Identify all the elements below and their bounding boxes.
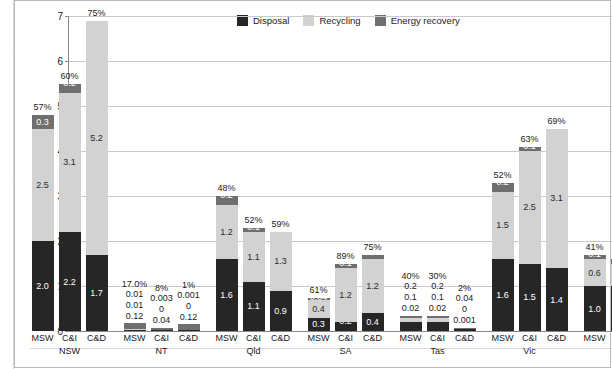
- segment-energy: [400, 316, 422, 317]
- recovery-percent-label: 75%: [363, 242, 381, 252]
- bar-column-nsw-cd[interactable]: 1.75.275%: [86, 16, 108, 331]
- x-tick-label-nt-cd: C&D: [172, 333, 206, 343]
- segment-value-label: 1.4: [550, 295, 563, 304]
- stacked-bar[interactable]: 1.61.20.2: [216, 196, 238, 331]
- segment-disposal: 1.1: [243, 282, 265, 332]
- segment-energy: 0.2: [216, 196, 238, 205]
- segment-value-label: 0.01: [126, 300, 144, 311]
- stacked-bar[interactable]: [178, 324, 200, 331]
- segment-value-label: 0.1: [429, 292, 447, 303]
- stacked-bar[interactable]: [151, 328, 173, 331]
- segment-value-label: 1.1: [247, 252, 260, 261]
- stacked-bar[interactable]: [124, 323, 146, 331]
- bar-column-vic-cd[interactable]: 1.43.169%: [546, 16, 568, 331]
- segment-value-label: 1.2: [366, 282, 379, 291]
- license-strip: CC BY 4.0 (https://creativecommons.org/l…: [0, 0, 14, 369]
- bar-column-nt-cd[interactable]: 1%0.00100.12: [178, 16, 200, 331]
- stacked-bar[interactable]: 1.43.1: [546, 129, 568, 332]
- bar-column-vic-ci[interactable]: 1.52.50.163%: [519, 16, 541, 331]
- recovery-percent-label: 61%: [309, 285, 327, 295]
- recovery-percent-label: 2%: [458, 283, 471, 293]
- stacked-bar[interactable]: 0.91.3: [270, 232, 292, 331]
- segment-recycling: 1.2: [362, 259, 384, 313]
- segment-energy: [454, 328, 476, 329]
- segment-value-label: 0.2: [429, 281, 447, 292]
- segment-disposal: [400, 322, 422, 331]
- stacked-bar[interactable]: 1.11.10.1: [243, 228, 265, 332]
- recovery-percent-label: 1%: [182, 280, 195, 290]
- bar-column-tas-ci[interactable]: 30%0.20.10.02: [427, 16, 449, 331]
- stacked-bar[interactable]: 0.41.2: [362, 255, 384, 332]
- x-tick-label-wa-ci: C&I: [605, 333, 612, 343]
- segment-value-label: 2.5: [36, 180, 49, 189]
- waste-stacked-bar-chart: CC BY 4.0 (https://creativecommons.org/l…: [0, 0, 612, 369]
- bar-column-nt-msw[interactable]: 17.0%0.010.010.12: [124, 16, 146, 331]
- bar-column-nsw-msw[interactable]: 2.02.50.357%: [32, 16, 54, 331]
- stacked-bar[interactable]: 1.75.2: [86, 21, 108, 332]
- recovery-percent-label: 52%: [244, 215, 262, 225]
- segment-recycling: 1.5: [492, 192, 514, 260]
- bar-column-nt-ci[interactable]: 8%0.00300.04: [151, 16, 173, 331]
- segment-disposal: 2.0: [32, 241, 54, 331]
- segment-energy: [362, 255, 384, 260]
- segment-energy: 0.2: [492, 183, 514, 192]
- stacked-bar[interactable]: 0.30.40.04: [308, 298, 330, 331]
- x-tick-label-tas-cd: C&D: [448, 333, 482, 343]
- segment-recycling: 5.2: [86, 21, 108, 255]
- bar-column-tas-cd[interactable]: 2%0.0400.001: [454, 16, 476, 331]
- segment-recycling: 3.1: [546, 129, 568, 269]
- segment-value-label: 2.0: [36, 282, 49, 291]
- bar-column-qld-cd[interactable]: 0.91.359%: [270, 16, 292, 331]
- segment-disposal: [178, 330, 200, 331]
- segment-value-label: 0.3: [36, 117, 49, 126]
- segment-value-label: 0: [150, 304, 173, 315]
- bar-column-qld-ci[interactable]: 1.11.10.152%: [243, 16, 265, 331]
- bar-column-qld-msw[interactable]: 1.61.20.248%: [216, 16, 238, 331]
- stacked-bar[interactable]: [427, 316, 449, 331]
- stacked-bar[interactable]: 2.23.10.2: [59, 84, 81, 332]
- segment-value-label: 1.5: [523, 293, 536, 302]
- x-axis-labels: MSWC&IC&DMSWC&IC&DMSWC&IC&DMSWC&IC&DMSWC…: [69, 333, 612, 369]
- segment-disposal: 1.4: [546, 268, 568, 331]
- recovery-percent-label: 89%: [336, 251, 354, 261]
- segment-disposal: 0.2: [335, 322, 357, 331]
- small-value-labels: 0.00300.04: [150, 293, 173, 326]
- y-tick-mark: [65, 331, 69, 332]
- recovery-percent-label: 75%: [87, 8, 105, 18]
- segment-value-label: 0.04: [453, 293, 476, 304]
- bar-column-sa-ci[interactable]: 0.21.20.189%: [335, 16, 357, 331]
- x-group-label-vic: Vic: [492, 346, 568, 356]
- bar-column-tas-msw[interactable]: 40%0.20.10.02: [400, 16, 422, 331]
- stacked-bar[interactable]: [454, 328, 476, 331]
- segment-value-label: 0.04: [150, 315, 173, 326]
- segment-disposal: 1.6: [216, 259, 238, 331]
- segment-energy: 0.3: [32, 115, 54, 129]
- x-group-label-sa: SA: [308, 346, 384, 356]
- bar-column-wa-msw[interactable]: 1.00.60.141%: [584, 16, 606, 331]
- segment-energy: [151, 328, 173, 330]
- stacked-bar[interactable]: 1.00.60.1: [584, 255, 606, 332]
- recovery-percent-label: 41%: [585, 242, 603, 252]
- bar-column-vic-msw[interactable]: 1.61.50.252%: [492, 16, 514, 331]
- bar-column-sa-msw[interactable]: 0.30.40.0461%: [308, 16, 330, 331]
- segment-energy: 0.1: [584, 255, 606, 260]
- segment-recycling: 1.1: [243, 232, 265, 282]
- segment-value-label: 1.3: [274, 257, 287, 266]
- segment-disposal: [454, 329, 476, 331]
- bar-column-sa-cd[interactable]: 0.41.275%: [362, 16, 384, 331]
- stacked-bar[interactable]: 1.52.50.1: [519, 147, 541, 332]
- stacked-bar[interactable]: 0.21.20.1: [335, 264, 357, 332]
- bar-column-nsw-ci[interactable]: 2.23.10.260%: [59, 16, 81, 331]
- segment-value-label: 0: [453, 304, 476, 315]
- small-value-labels: 0.0400.001: [453, 293, 476, 326]
- stacked-bar[interactable]: [400, 316, 422, 331]
- segment-value-label: 2.2: [63, 277, 76, 286]
- segment-recycling: 0.6: [584, 259, 606, 286]
- stacked-bar[interactable]: 2.02.50.3: [32, 115, 54, 331]
- segment-value-label: 1.7: [90, 288, 103, 297]
- x-tick-label-sa-cd: C&D: [356, 333, 390, 343]
- segment-value-label: 0.3: [312, 320, 325, 329]
- small-value-labels: 0.20.10.02: [429, 281, 447, 314]
- stacked-bar[interactable]: 1.61.50.2: [492, 183, 514, 332]
- x-group-label-tas: Tas: [400, 346, 476, 356]
